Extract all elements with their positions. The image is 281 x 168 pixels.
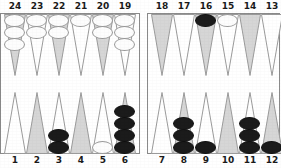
point-number-24: 24 — [7, 0, 23, 13]
point-number-22: 22 — [51, 0, 67, 13]
point-15[interactable] — [217, 14, 239, 76]
checker-black-point-8[interactable] — [173, 141, 194, 154]
point-triangle-10 — [217, 92, 239, 154]
checker-black-point-8[interactable] — [173, 117, 194, 130]
checker-black-point-6[interactable] — [114, 105, 135, 118]
point-8[interactable] — [173, 92, 195, 154]
point-number-21: 21 — [73, 0, 89, 13]
point-number-11: 11 — [242, 154, 258, 167]
point-triangle-14 — [239, 14, 261, 76]
checker-black-point-6[interactable] — [114, 141, 135, 154]
point-14[interactable] — [239, 14, 261, 76]
point-number-19: 19 — [117, 0, 133, 13]
point-22[interactable] — [48, 14, 70, 76]
checker-black-point-6[interactable] — [114, 129, 135, 142]
checker-black-point-3[interactable] — [48, 129, 69, 142]
checker-white-point-22[interactable] — [48, 26, 69, 39]
point-number-7: 7 — [154, 154, 170, 167]
point-4[interactable] — [70, 92, 92, 154]
checker-black-point-6[interactable] — [114, 117, 135, 130]
backgammon-board: 242322212019181716151413 123456789101112 — [0, 0, 281, 168]
point-number-10: 10 — [220, 154, 236, 167]
checker-black-point-16[interactable] — [195, 14, 216, 27]
point-24[interactable] — [4, 14, 26, 76]
point-triangle-2 — [26, 92, 48, 154]
top-point-number-row: 242322212019181716151413 — [0, 0, 281, 13]
point-9[interactable] — [195, 92, 217, 154]
checker-white-point-15[interactable] — [217, 14, 238, 27]
point-triangle-18 — [151, 14, 173, 76]
point-triangle-4 — [70, 92, 92, 154]
point-number-15: 15 — [220, 0, 236, 13]
point-number-2: 2 — [29, 154, 45, 167]
point-triangle-13 — [261, 14, 281, 76]
checker-white-point-20[interactable] — [92, 26, 113, 39]
checker-white-point-19[interactable] — [114, 38, 135, 51]
checker-black-point-9[interactable] — [195, 141, 216, 154]
center-bar — [139, 13, 148, 154]
point-number-16: 16 — [198, 0, 214, 13]
checker-black-point-8[interactable] — [173, 129, 194, 142]
point-triangle-17 — [173, 14, 195, 76]
point-18[interactable] — [151, 14, 173, 76]
point-16[interactable] — [195, 14, 217, 76]
point-number-1: 1 — [7, 154, 23, 167]
point-number-14: 14 — [242, 0, 258, 13]
point-number-4: 4 — [73, 154, 89, 167]
point-21[interactable] — [70, 14, 92, 76]
point-7[interactable] — [151, 92, 173, 154]
point-number-12: 12 — [264, 154, 280, 167]
checker-black-point-3[interactable] — [48, 141, 69, 154]
point-number-8: 8 — [176, 154, 192, 167]
checker-black-point-11[interactable] — [239, 129, 260, 142]
point-17[interactable] — [173, 14, 195, 76]
point-number-9: 9 — [198, 154, 214, 167]
point-12[interactable] — [261, 92, 281, 154]
point-number-20: 20 — [95, 0, 111, 13]
checker-white-point-5[interactable] — [92, 141, 113, 154]
bottom-point-number-row: 123456789101112 — [0, 154, 281, 167]
point-number-17: 17 — [176, 0, 192, 13]
point-6[interactable] — [114, 92, 136, 154]
point-triangle-1 — [4, 92, 26, 154]
checker-white-point-21[interactable] — [70, 14, 91, 27]
checker-black-point-12[interactable] — [261, 141, 281, 154]
point-number-3: 3 — [51, 154, 67, 167]
checker-black-point-11[interactable] — [239, 141, 260, 154]
point-13[interactable] — [261, 14, 281, 76]
point-20[interactable] — [92, 14, 114, 76]
point-5[interactable] — [92, 92, 114, 154]
point-triangle-7 — [151, 92, 173, 154]
point-number-23: 23 — [29, 0, 45, 13]
point-11[interactable] — [239, 92, 261, 154]
checker-white-point-23[interactable] — [26, 26, 47, 39]
point-1[interactable] — [4, 92, 26, 154]
point-23[interactable] — [26, 14, 48, 76]
point-number-6: 6 — [117, 154, 133, 167]
point-2[interactable] — [26, 92, 48, 154]
point-19[interactable] — [114, 14, 136, 76]
point-number-18: 18 — [154, 0, 170, 13]
point-number-5: 5 — [95, 154, 111, 167]
point-number-13: 13 — [264, 0, 280, 13]
checker-black-point-11[interactable] — [239, 117, 260, 130]
point-10[interactable] — [217, 92, 239, 154]
checker-white-point-24[interactable] — [4, 38, 25, 51]
point-3[interactable] — [48, 92, 70, 154]
